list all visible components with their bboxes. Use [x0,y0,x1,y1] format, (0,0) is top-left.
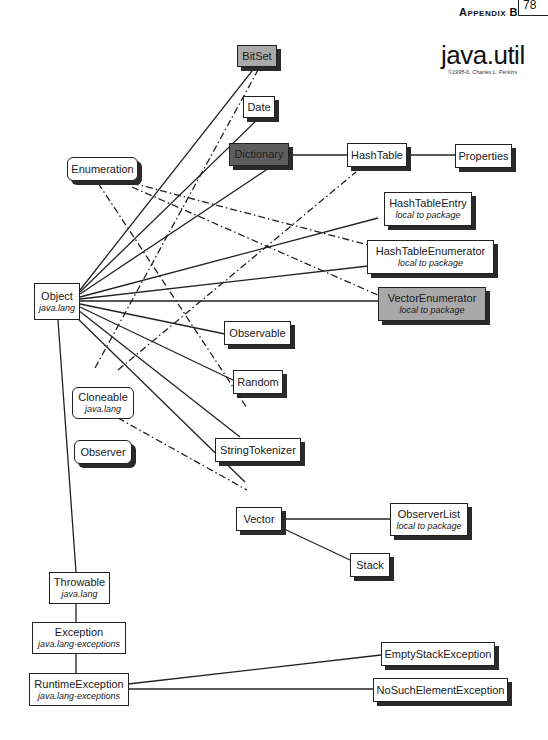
class-package: local to package [398,258,463,269]
interface-label: Enumeration [71,163,133,176]
class-label: Vector [243,513,274,526]
class-observerlist[interactable]: ObserverList local to package [390,503,468,536]
implements-lines [95,70,380,490]
class-label: VectorEnumerator [388,292,477,305]
class-package: local to package [399,305,464,316]
class-label: Exception [55,626,103,639]
interface-observer[interactable]: Observer [74,440,132,464]
class-package: java.lang [39,303,75,314]
class-hashtableenumerator[interactable]: HashTableEnumerator local to package [367,240,494,274]
class-label: Stack [356,559,384,572]
class-emptystackexception[interactable]: EmptyStackException [381,642,495,666]
class-observable[interactable]: Observable [224,321,291,345]
class-label: BitSet [242,50,271,63]
class-vectorenumerator[interactable]: VectorEnumerator local to package [378,287,486,321]
class-package: local to package [396,521,461,532]
class-package: java.lang-exceptions [38,691,120,702]
interface-cloneable[interactable]: Cloneable java.lang [72,387,134,419]
interface-package: java.lang [85,404,121,415]
class-label: Properties [458,150,508,163]
class-hashtableentry[interactable]: HashTableEntry local to package [384,192,472,226]
class-throwable[interactable]: Throwable java.lang [49,572,110,604]
class-object[interactable]: Object java.lang [34,283,80,320]
class-random[interactable]: Random [233,370,283,394]
class-stack[interactable]: Stack [350,553,390,577]
interface-label: Observer [80,446,125,459]
class-runtimeexception[interactable]: RuntimeException java.lang-exceptions [29,673,129,706]
class-vector[interactable]: Vector [236,507,282,531]
class-label: Dictionary [235,148,284,161]
class-bitset[interactable]: BitSet [237,45,277,67]
class-dictionary[interactable]: Dictionary [229,143,289,166]
class-label: RuntimeException [34,678,123,691]
class-package: local to package [395,210,460,221]
class-label: Observable [229,327,285,340]
class-package: java.lang [61,589,97,600]
interface-label: Cloneable [78,391,128,404]
class-label: HashTableEnumerator [376,245,485,258]
class-label: Random [237,376,279,389]
class-label: ObserverList [398,508,460,521]
interface-enumeration[interactable]: Enumeration [67,157,138,181]
class-label: StringTokenizer [220,444,296,457]
class-package: java.lang-exceptions [38,639,120,650]
class-date[interactable]: Date [243,96,275,118]
class-label: NoSuchElementException [377,684,505,697]
class-label: HashTableEntry [389,197,467,210]
class-exception[interactable]: Exception java.lang-exceptions [32,622,126,654]
class-nosuchelementexception[interactable]: NoSuchElementException [373,678,508,702]
class-label: HashTable [351,149,403,162]
class-stringtokenizer[interactable]: StringTokenizer [215,438,301,462]
class-properties[interactable]: Properties [455,144,512,168]
class-label: Object [41,290,73,303]
class-label: Throwable [54,576,105,589]
class-label: EmptyStackException [385,648,492,661]
class-label: Date [247,101,270,114]
class-hashtable[interactable]: HashTable [347,143,407,167]
